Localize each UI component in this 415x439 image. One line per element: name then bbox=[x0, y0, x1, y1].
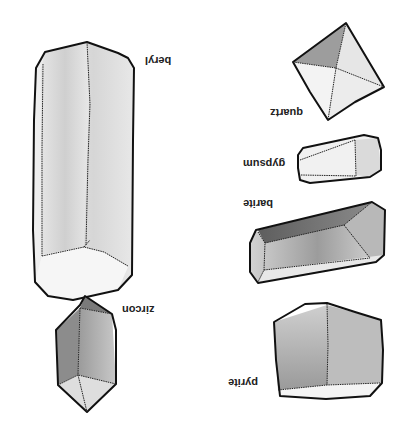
label-pyrite: pyrite bbox=[228, 377, 258, 388]
zircon-crystal bbox=[56, 296, 116, 412]
gypsum-crystal bbox=[298, 135, 381, 183]
beryl-crystal bbox=[33, 42, 134, 300]
pyrite-crystal bbox=[274, 303, 383, 399]
label-barite: barite bbox=[243, 198, 273, 209]
label-gypsum: gypsum bbox=[243, 158, 285, 169]
crystal-drawings bbox=[0, 0, 415, 439]
label-beryl: beryl bbox=[145, 55, 171, 66]
crystal-illustration: beryl quartz gypsum barite zircon pyrite bbox=[0, 0, 415, 439]
label-zircon: zircon bbox=[122, 304, 154, 315]
barite-crystal bbox=[250, 202, 385, 283]
quartz-crystal bbox=[293, 23, 384, 120]
label-quartz: quartz bbox=[270, 107, 303, 118]
